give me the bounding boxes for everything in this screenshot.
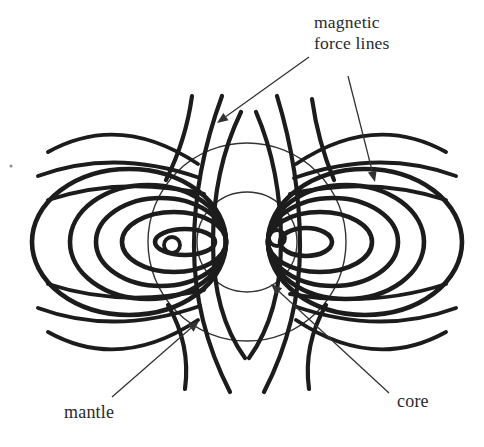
label-core: core	[397, 391, 429, 412]
mantle-arrow	[112, 328, 191, 397]
right-inner-polar-field-line	[249, 112, 281, 358]
magnetic-field-figure: magnetic force lines mantle core	[0, 0, 484, 447]
right-field-loop-5	[280, 228, 332, 256]
label-mantle: mantle	[64, 402, 114, 423]
magnetic-force-lines-arrow-right-head	[368, 170, 377, 182]
upper-left-field-line	[166, 96, 192, 180]
scan-speck	[10, 165, 13, 168]
core-arrow	[279, 291, 389, 393]
left-inner-polar-field-line	[213, 112, 245, 358]
magnetic-force-lines-arrow-left-head	[217, 113, 229, 123]
magnetic-force-lines-arrow-left	[226, 57, 309, 117]
magnetic-force-lines-arrow-right	[348, 76, 372, 171]
magnetic-field-diagram	[0, 0, 484, 447]
label-magnetic-force-lines: magnetic force lines	[314, 12, 390, 54]
left-field-swirl	[164, 237, 180, 253]
left-field-loop-4	[122, 212, 226, 272]
